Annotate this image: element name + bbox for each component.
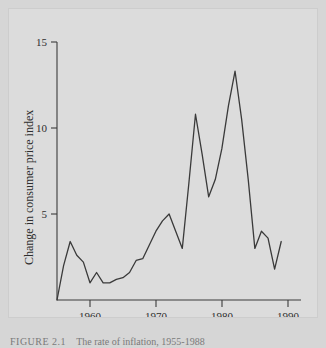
x-tick-label-1960: 1960	[79, 310, 102, 317]
caption-text: The rate of inflation, 1955-1988	[76, 336, 205, 347]
y-axis-title: Change in consumer price index	[22, 110, 36, 265]
y-tick-label-5: 5	[42, 208, 48, 220]
y-tick-label-15: 15	[36, 36, 48, 48]
figure-container: Change in consumer price index 15 10 5 1…	[0, 0, 326, 348]
data-series-line	[57, 71, 281, 300]
x-tick-label-1980: 1980	[211, 310, 234, 317]
x-tick-label-1990: 1990	[277, 310, 300, 317]
x-tick-label-1970: 1970	[145, 310, 168, 317]
x-axis-ticks: 1960 1970 1980 1990	[79, 300, 300, 317]
plot-panel: Change in consumer price index 15 10 5 1…	[8, 8, 318, 318]
y-axis-ticks: 15 10 5	[36, 36, 57, 220]
caption-label: FIGURE 2.1	[10, 336, 66, 347]
line-chart: Change in consumer price index 15 10 5 1…	[9, 9, 317, 317]
figure-caption: FIGURE 2.1The rate of inflation, 1955-19…	[10, 336, 320, 348]
y-tick-label-10: 10	[36, 122, 48, 134]
